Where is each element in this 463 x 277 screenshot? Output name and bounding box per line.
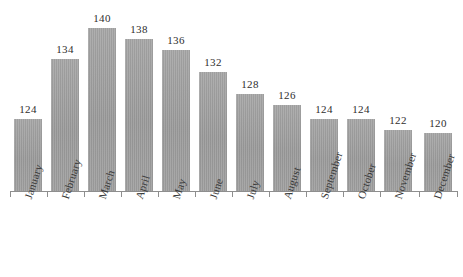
bar-value-label: 128	[241, 78, 259, 90]
bar-value-label: 140	[93, 12, 111, 24]
bar-group[interactable]: 136	[162, 0, 190, 191]
bar-rect[interactable]	[125, 39, 153, 191]
category-axis-labels: January February March April May June Ju…	[0, 197, 463, 277]
bar-value-label: 132	[204, 56, 222, 68]
bar-rect[interactable]	[88, 28, 116, 191]
bar-group[interactable]: 124	[14, 0, 42, 191]
bar-value-label: 122	[389, 114, 407, 126]
bar-rect[interactable]	[236, 94, 264, 191]
bar-group[interactable]: 132	[199, 0, 227, 191]
bar-value-label: 124	[315, 103, 333, 115]
bar-group[interactable]: 140	[88, 0, 116, 191]
bar-rect[interactable]	[199, 72, 227, 191]
bar-value-label: 126	[278, 89, 296, 101]
bar-group[interactable]: 138	[125, 0, 153, 191]
bar-rect[interactable]	[162, 50, 190, 191]
bar-value-label: 134	[56, 43, 74, 55]
bar-group[interactable]: 128	[236, 0, 264, 191]
bar-value-label: 124	[19, 103, 37, 115]
bar-value-label: 120	[429, 117, 447, 129]
bar-value-label: 124	[352, 103, 370, 115]
bar-group[interactable]: 126	[273, 0, 301, 191]
bar-value-label: 136	[167, 34, 185, 46]
x-axis-line	[10, 191, 458, 192]
bar-chart: 124 134 140 138 136 132 128 126	[0, 0, 463, 277]
bar-value-label: 138	[130, 23, 148, 35]
